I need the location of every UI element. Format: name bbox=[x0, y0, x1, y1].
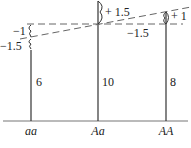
genotype-label-AA: AA bbox=[158, 124, 174, 138]
ref-label-Aa: −1.5 bbox=[127, 26, 149, 40]
value-label-aa: 6 bbox=[36, 75, 42, 89]
value-label-Aa: 10 bbox=[102, 75, 114, 89]
brace-aa-ref bbox=[29, 25, 31, 37]
brace-aa-dev bbox=[29, 39, 31, 49]
deviation-label-aa: −1.5 bbox=[0, 39, 22, 53]
ref-label-aa: −1 bbox=[13, 24, 26, 38]
deviation-label-Aa: + 1.5 bbox=[105, 5, 130, 19]
brace-Aa-dev bbox=[98, 1, 102, 24]
genotype-label-aa: aa bbox=[25, 124, 37, 138]
genotype-value-diagram: −1 −1.5 + 1.5 −1.5 + 1 6 10 8 aa Aa AA bbox=[0, 0, 191, 148]
deviation-label-AA: + 1 bbox=[171, 9, 187, 23]
genotype-label-Aa: Aa bbox=[90, 124, 104, 138]
value-label-AA: 8 bbox=[170, 75, 176, 89]
